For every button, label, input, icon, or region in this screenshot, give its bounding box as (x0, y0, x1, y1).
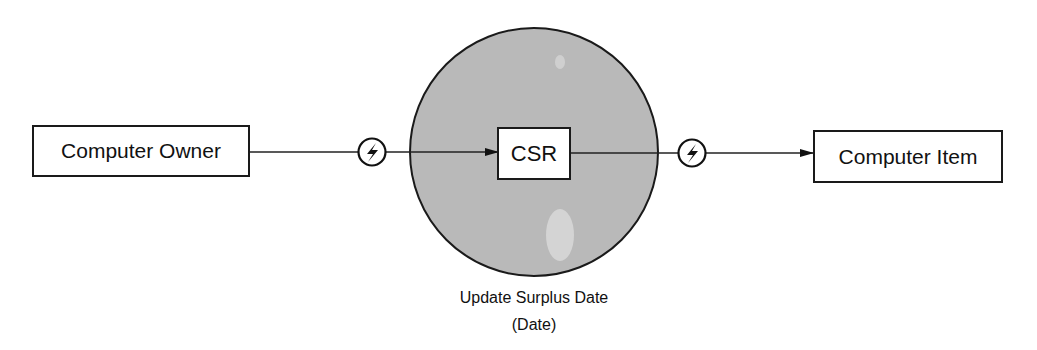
lightning-bolt-icon (679, 140, 706, 167)
computer-item-label: Computer Item (839, 145, 978, 169)
computer-owner-label: Computer Owner (61, 139, 221, 163)
csr-label: CSR (511, 141, 557, 167)
computer-item-box: Computer Item (813, 130, 1003, 183)
lightning-bolt-icon (359, 139, 386, 166)
process-caption: Update Surplus Date (Date) (410, 284, 658, 338)
process-caption-subtitle: (Date) (410, 311, 658, 338)
csr-box: CSR (497, 127, 571, 180)
computer-owner-box: Computer Owner (32, 125, 250, 177)
process-caption-title: Update Surplus Date (410, 284, 658, 311)
